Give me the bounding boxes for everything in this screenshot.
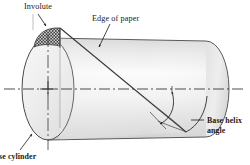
label-base-cylinder: ase cylinder xyxy=(0,152,36,162)
base-cylinder-leader-icon xyxy=(20,134,32,150)
label-base-helix-angle: Base helix angle xyxy=(207,116,242,135)
involute-leader-icon xyxy=(38,14,46,26)
label-base-helix-angle-line1: Base helix xyxy=(207,116,242,126)
figure-canvas: Involute Edge of paper Base helix angle … xyxy=(0,0,250,165)
cylinder-involute-diagram xyxy=(0,0,250,165)
label-involute: Involute xyxy=(24,2,52,12)
involute-hatched-sector xyxy=(34,28,60,48)
label-base-helix-angle-line2: angle xyxy=(207,126,242,136)
label-edge-of-paper: Edge of paper xyxy=(92,14,139,24)
